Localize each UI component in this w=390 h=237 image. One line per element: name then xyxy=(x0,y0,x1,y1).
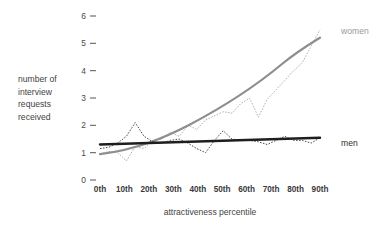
y-axis-title: number of interview requests received xyxy=(18,74,57,122)
series-label-men: men xyxy=(341,138,358,148)
x-ticklabel-30th: 30th xyxy=(165,185,182,194)
x-axis-title: attractiveness percentile xyxy=(164,207,257,217)
y-ticklabel-4: 4 xyxy=(81,66,86,76)
x-ticklabel-0th: 0th xyxy=(94,185,106,194)
y-ticklabel-5: 5 xyxy=(81,38,86,48)
y-axis-title-line-2: interview xyxy=(18,87,53,97)
x-ticklabel-40th: 40th xyxy=(189,185,206,194)
y-axis-tickmarks xyxy=(90,16,96,180)
x-ticklabel-80th: 80th xyxy=(287,185,304,194)
y-axis-title-line-3: requests xyxy=(18,99,51,109)
y-ticklabel-0: 0 xyxy=(81,175,86,185)
x-ticklabel-90th: 90th xyxy=(312,185,329,194)
series-label-women: women xyxy=(340,26,369,36)
chart-container: 6 5 4 3 2 1 0 number of interview reques… xyxy=(0,0,390,237)
y-ticklabel-3: 3 xyxy=(81,93,86,103)
y-ticklabel-6: 6 xyxy=(81,11,86,21)
men-trend-line xyxy=(100,138,320,145)
y-axis-title-line-1: number of xyxy=(18,74,57,84)
x-ticklabel-20th: 20th xyxy=(140,185,157,194)
line-chart-plot: 6 5 4 3 2 1 0 number of interview reques… xyxy=(0,0,390,237)
x-ticklabel-60th: 60th xyxy=(238,185,255,194)
x-axis-ticklabels: 0th 10th 20th 30th 40th 50th 60th 70th 8… xyxy=(94,185,329,194)
x-ticklabel-50th: 50th xyxy=(214,185,231,194)
x-ticklabel-10th: 10th xyxy=(116,185,133,194)
women-trend-curve xyxy=(100,38,320,154)
y-axis-title-line-4: received xyxy=(18,112,51,122)
y-ticklabel-1: 1 xyxy=(81,148,86,158)
y-ticklabel-2: 2 xyxy=(81,120,86,130)
y-axis-ticklabels: 6 5 4 3 2 1 0 xyxy=(81,11,86,185)
x-ticklabel-70th: 70th xyxy=(263,185,280,194)
